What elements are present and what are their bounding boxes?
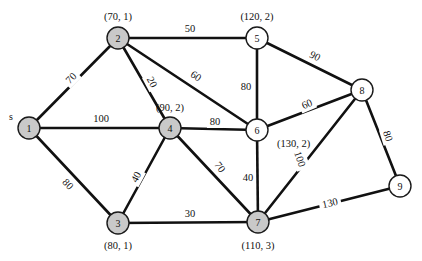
node-attribute-7: (110, 3) (242, 240, 275, 252)
node-1[interactable]: 1 (18, 117, 40, 139)
diagram-canvas: 7010080502060403080708090604010013080 12… (0, 0, 422, 261)
node-label-5: 5 (255, 33, 260, 44)
node-3[interactable]: 3 (107, 212, 129, 234)
node-attribute-3: (80, 1) (104, 240, 132, 252)
node-4[interactable]: 4 (159, 117, 181, 139)
node-label-8: 8 (360, 85, 365, 96)
node-7[interactable]: 7 (247, 211, 269, 233)
edge-weight-label-2-5: 50 (185, 23, 196, 34)
source-marker-label: s (9, 111, 13, 122)
nodes-layer: 123456789 (18, 27, 411, 234)
node-label-9: 9 (398, 181, 403, 192)
node-6[interactable]: 6 (246, 119, 268, 141)
node-5[interactable]: 5 (246, 27, 268, 49)
node-label-7: 7 (256, 217, 261, 228)
node-8[interactable]: 8 (351, 79, 373, 101)
edge-2-4 (118, 38, 170, 128)
node-2[interactable]: 2 (107, 27, 129, 49)
edge-weight-label-5-6: 80 (241, 81, 252, 92)
node-attribute-5: (120, 2) (240, 11, 274, 23)
edge-weight-label-3-7: 30 (185, 208, 196, 219)
edge-6-7 (257, 130, 258, 222)
node-label-2: 2 (116, 33, 121, 44)
node-label-4: 4 (168, 123, 173, 134)
edge-3-7 (118, 222, 258, 223)
node-9[interactable]: 9 (389, 175, 411, 197)
network-graph: 7010080502060403080708090604010013080 12… (0, 0, 422, 261)
edge-weight-label-6-7: 40 (243, 172, 254, 183)
node-label-3: 3 (116, 218, 121, 229)
edge-weight-label-4-6: 80 (210, 116, 221, 127)
node-attribute-2: (70, 1) (104, 11, 132, 23)
edge-4-6 (170, 128, 257, 130)
node-label-6: 6 (255, 125, 260, 136)
edge-2-6 (118, 38, 257, 130)
edges-layer (29, 38, 400, 223)
node-attribute-4: (90, 2) (156, 102, 184, 114)
source-marker-layer: s (9, 111, 13, 122)
node-attribute-6: (130, 2) (277, 138, 311, 150)
edge-weight-label-1-4: 100 (93, 113, 109, 124)
edge-1-3 (29, 128, 118, 223)
edge-5-8 (257, 38, 362, 90)
node-label-1: 1 (27, 123, 32, 134)
